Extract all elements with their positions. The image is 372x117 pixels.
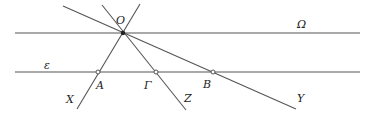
point-b bbox=[211, 70, 215, 74]
label-epsilon: ε bbox=[44, 59, 50, 72]
geometry-diagram: O Ω ε A Γ B X Z Y bbox=[0, 0, 372, 117]
label-omega: Ω bbox=[296, 18, 306, 31]
label-o: O bbox=[116, 14, 125, 27]
label-b: B bbox=[202, 78, 211, 91]
label-a: A bbox=[95, 79, 104, 92]
line-ox bbox=[77, 4, 140, 109]
point-o bbox=[121, 31, 125, 35]
line-oz bbox=[102, 5, 186, 110]
label-y: Y bbox=[297, 92, 306, 105]
label-x: X bbox=[65, 93, 75, 106]
label-gamma: Γ bbox=[143, 79, 152, 92]
point-a bbox=[96, 70, 100, 74]
line-oy bbox=[63, 6, 296, 109]
point-gamma bbox=[154, 70, 158, 74]
label-z: Z bbox=[183, 92, 192, 105]
